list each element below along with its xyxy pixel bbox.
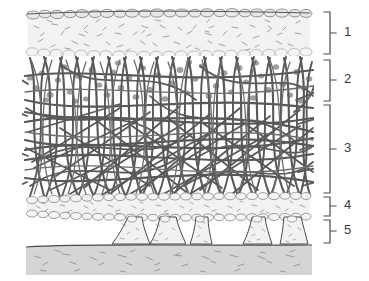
fiber-network-group	[17, 56, 318, 198]
bracket-4-shape	[324, 197, 336, 216]
bracket-1-label: 1	[344, 24, 351, 39]
figure-root: 1 2 3 4 5	[0, 0, 369, 281]
bracket-4-label: 4	[344, 197, 351, 212]
bracket-2-label: 2	[344, 71, 351, 86]
bracket-5-label: 5	[344, 222, 351, 237]
bracket-annotations: 1 2 3 4 5	[324, 12, 351, 243]
bracket-3-shape	[324, 105, 336, 193]
bracket-1-shape	[324, 12, 336, 54]
bracket-5-shape	[324, 220, 336, 243]
bracket-3-label: 3	[344, 140, 351, 155]
bracket-2-shape	[324, 60, 336, 101]
layered-cross-section-diagram: 1 2 3 4 5	[0, 0, 369, 281]
bracket-4: 4	[324, 197, 351, 216]
bracket-1: 1	[324, 12, 351, 54]
bracket-5: 5	[324, 220, 351, 243]
bracket-2: 2	[324, 60, 351, 101]
substrate-body	[26, 245, 312, 275]
layer-5-pillars	[112, 217, 308, 244]
substrate-group	[26, 245, 312, 275]
bracket-3: 3	[324, 105, 351, 193]
layer-1-group	[26, 9, 312, 60]
